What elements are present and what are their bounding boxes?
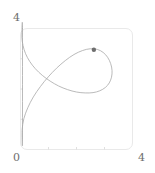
origin-label: 0 bbox=[13, 152, 20, 163]
x-axis-ticks bbox=[49, 147, 105, 150]
plot-screenshot: 4 0 4 bbox=[0, 0, 155, 173]
y-axis-max-label: 4 bbox=[13, 12, 20, 23]
parametric-curve bbox=[22, 22, 112, 146]
plot-canvas bbox=[0, 0, 155, 173]
curve-point-markers bbox=[92, 47, 96, 51]
x-axis-max-label: 4 bbox=[138, 152, 145, 163]
